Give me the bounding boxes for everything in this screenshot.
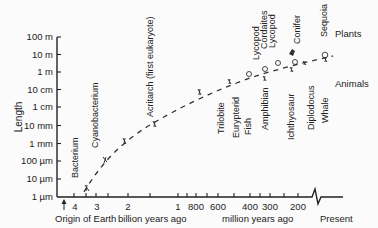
marker-lycopod-2 xyxy=(276,61,281,66)
marker-sequoia xyxy=(322,52,328,58)
y-tick-label: 1 m xyxy=(37,66,53,77)
label-acritarch: Acritarch (first eukaryote) xyxy=(145,16,155,117)
label-sequoia: Sequoia xyxy=(319,4,329,37)
chart-svg: 100 m 10 m 1 m 10 cm 1 cm 10 mm 1 mm 100… xyxy=(0,0,378,228)
y-tick-label: 10 cm xyxy=(27,84,53,95)
billion-years-label: billion years ago xyxy=(118,213,187,224)
y-axis-title: Length xyxy=(13,102,24,133)
y-tick-label: 100 m xyxy=(27,31,53,42)
marker-trilobite xyxy=(198,89,201,95)
label-ichthyosaur: Ichthyosaur xyxy=(286,93,296,140)
label-conifer: Conifer xyxy=(292,15,302,44)
origin-label: Origin of Earth xyxy=(55,213,116,224)
present-label: Present xyxy=(320,213,353,224)
x-axis-group-labels: Origin of Earth billion years ago millio… xyxy=(55,213,353,224)
origin-arrow-icon xyxy=(62,199,67,210)
label-diplodocus: Diplodocus xyxy=(306,85,316,130)
x-tick-label: 400 xyxy=(242,201,258,212)
x-tick-label: 1 xyxy=(175,201,180,212)
x-tick-label: 600 xyxy=(210,201,226,212)
label-trilobite: Trilobite xyxy=(216,102,226,134)
y-tick-labels: 100 m 10 m 1 m 10 cm 1 cm 10 mm 1 mm 100… xyxy=(21,31,53,202)
marker-cordaites xyxy=(263,67,268,72)
x-tick-labels: 4 3 2 1 800 600 400 300 200 xyxy=(72,201,306,212)
label-whale: Whale xyxy=(320,97,330,123)
x-tick-label: 300 xyxy=(262,201,278,212)
label-lycopod-2: Lycopod xyxy=(267,14,277,48)
y-tick-label: 1 cm xyxy=(32,101,53,112)
x-tick-label: 800 xyxy=(188,201,204,212)
x-tick-label: 2 xyxy=(125,201,130,212)
animal-labels: Bacterium Cyanobacterium Acritarch (firs… xyxy=(70,16,330,178)
label-eurypterid: Eurypterid xyxy=(231,97,241,138)
million-years-label: million years ago xyxy=(222,213,293,224)
marker-eurypterid-fish xyxy=(228,79,231,84)
plants-group-label: Plants xyxy=(335,28,362,39)
marker-conifer xyxy=(293,60,298,65)
y-tick-label: 10 µm xyxy=(26,173,53,184)
marker-amphibian xyxy=(263,76,266,81)
y-tick-label: 1 µm xyxy=(32,191,53,202)
plant-labels: Lycopod Cordaites Lycopod Conifer Sequoi… xyxy=(251,4,329,60)
label-amphibian: Amphibian xyxy=(260,87,270,130)
conifer-blot-icon xyxy=(289,49,295,56)
marker-ichthyosaur xyxy=(290,67,293,72)
y-tick-label: 1 mm xyxy=(29,138,53,149)
marker-cyanobacterium xyxy=(103,157,107,163)
label-cyanobacterium: Cyanobacterium xyxy=(90,82,100,148)
y-tick-label: 10 mm xyxy=(24,120,53,131)
evolution-size-chart: 100 m 10 m 1 m 10 cm 1 cm 10 mm 1 mm 100… xyxy=(0,0,378,228)
animals-group-label: Animals xyxy=(335,78,369,89)
marker-unnamed xyxy=(123,138,126,144)
x-tick-label: 3 xyxy=(94,201,99,212)
label-fish: Fish xyxy=(243,118,253,135)
y-tick-label: 10 m xyxy=(32,49,53,60)
marker-lycopod-1 xyxy=(247,72,252,77)
x-tick-label: 200 xyxy=(290,201,306,212)
x-tick-label: 4 xyxy=(72,201,77,212)
y-tick-label: 100 µm xyxy=(21,155,53,166)
label-bacterium: Bacterium xyxy=(70,137,80,178)
